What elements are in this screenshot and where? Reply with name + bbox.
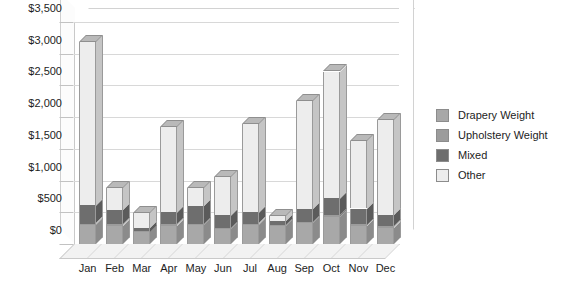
- x-axis-tick-label: May: [182, 262, 209, 274]
- bar-segment[interactable]: [350, 224, 367, 225]
- bar-segment[interactable]: [106, 210, 123, 224]
- x-axis-tick-label: Jan: [74, 262, 101, 274]
- bar-segment-front: [133, 231, 150, 232]
- bar-column[interactable]: [269, 216, 286, 244]
- bar-segment[interactable]: [106, 224, 123, 225]
- bar-segment[interactable]: [377, 226, 394, 227]
- bar-segment-front: [79, 225, 96, 244]
- y-axis-tick-label: $2,000: [28, 97, 62, 109]
- legend-swatch: [436, 169, 449, 182]
- bar-segment[interactable]: [242, 224, 259, 225]
- bar-segment-side: [177, 120, 184, 213]
- bar-segment[interactable]: [214, 177, 231, 216]
- bar-segment[interactable]: [269, 221, 286, 225]
- bar-segment[interactable]: [377, 228, 394, 244]
- bar-segment[interactable]: [323, 217, 340, 244]
- bar-series-group: [74, 22, 399, 244]
- bar-segment[interactable]: [133, 213, 150, 228]
- bar-segment[interactable]: [187, 224, 204, 225]
- legend-item[interactable]: Drapery Weight: [436, 105, 548, 125]
- bar-segment[interactable]: [323, 72, 340, 199]
- bar-column[interactable]: [160, 127, 177, 244]
- bar-segment[interactable]: [160, 226, 177, 244]
- bar-segment[interactable]: [377, 215, 394, 226]
- bar-segment[interactable]: [214, 228, 231, 229]
- bar-segment[interactable]: [242, 225, 259, 244]
- x-axis-tick-label: Apr: [155, 262, 182, 274]
- bar-segment[interactable]: [323, 198, 340, 215]
- bar-segment-side: [340, 65, 347, 199]
- bar-segment-front: [296, 101, 313, 209]
- bar-segment-side: [367, 134, 374, 209]
- bar-column[interactable]: [377, 120, 394, 244]
- bar-segment[interactable]: [269, 225, 286, 226]
- bar-segment-front: [269, 221, 286, 225]
- bar-segment[interactable]: [133, 228, 150, 232]
- y-axis-tick-label: $3,500: [28, 2, 62, 14]
- bar-segment[interactable]: [133, 232, 150, 244]
- bar-segment[interactable]: [187, 206, 204, 224]
- bar-segment-front: [377, 226, 394, 227]
- bar-segment[interactable]: [296, 223, 313, 244]
- y-axis-tick-label: $500: [38, 192, 62, 204]
- bar-segment[interactable]: [296, 222, 313, 223]
- bar-segment[interactable]: [214, 215, 231, 228]
- bar-segment[interactable]: [133, 231, 150, 232]
- bar-column[interactable]: [187, 188, 204, 244]
- bar-segment[interactable]: [269, 226, 286, 244]
- legend-swatch: [436, 149, 449, 162]
- bar-column[interactable]: [350, 141, 367, 244]
- bar-segment[interactable]: [187, 225, 204, 244]
- bar-segment-front: [214, 229, 231, 244]
- bar-segment-front: [160, 224, 177, 225]
- bar-segment-front: [323, 215, 340, 217]
- bar-segment-front: [160, 212, 177, 224]
- bar-segment[interactable]: [160, 127, 177, 213]
- bar-segment-front: [106, 188, 123, 210]
- bar-segment[interactable]: [79, 224, 96, 225]
- bar-segment[interactable]: [242, 212, 259, 223]
- bar-segment[interactable]: [79, 205, 96, 223]
- bar-segment[interactable]: [296, 101, 313, 209]
- bar-segment[interactable]: [214, 229, 231, 244]
- bar-segment[interactable]: [106, 226, 123, 244]
- bar-segment[interactable]: [350, 226, 367, 244]
- legend-item[interactable]: Other: [436, 165, 548, 185]
- bar-segment[interactable]: [377, 120, 394, 215]
- legend-item[interactable]: Mixed: [436, 145, 548, 165]
- bar-column[interactable]: [79, 42, 96, 244]
- bar-segment[interactable]: [269, 216, 286, 221]
- bar-column[interactable]: [214, 177, 231, 244]
- y-axis-tick-label: $0: [50, 224, 62, 236]
- legend-item[interactable]: Upholstery Weight: [436, 125, 548, 145]
- plot-top-face: [74, 8, 415, 23]
- bar-segment-front: [350, 141, 367, 209]
- bar-segment[interactable]: [187, 188, 204, 206]
- bar-segment[interactable]: [106, 188, 123, 210]
- bar-segment-side: [231, 170, 238, 216]
- bar-segment-front: [160, 127, 177, 213]
- bar-segment-front: [323, 72, 340, 199]
- bar-segment[interactable]: [160, 224, 177, 225]
- bar-segment[interactable]: [350, 141, 367, 209]
- legend-swatch: [436, 129, 449, 142]
- legend-item-label: Other: [458, 169, 486, 181]
- bar-column[interactable]: [323, 71, 340, 244]
- bar-segment[interactable]: [242, 124, 259, 213]
- bar-column[interactable]: [106, 188, 123, 244]
- bar-segment[interactable]: [160, 212, 177, 224]
- x-axis-tick-label: Mar: [128, 262, 155, 274]
- bar-segment[interactable]: [79, 225, 96, 244]
- bar-column[interactable]: [133, 213, 150, 244]
- bar-segment-front: [350, 224, 367, 225]
- bar-segment[interactable]: [350, 209, 367, 225]
- bar-column[interactable]: [296, 101, 313, 244]
- bar-segment[interactable]: [79, 42, 96, 206]
- bar-segment-front: [269, 216, 286, 221]
- bar-segment[interactable]: [323, 215, 340, 217]
- bar-segment-front: [323, 198, 340, 215]
- bar-column[interactable]: [242, 124, 259, 245]
- legend-item-label: Upholstery Weight: [458, 129, 548, 141]
- bar-segment-front: [214, 228, 231, 229]
- bar-segment[interactable]: [296, 209, 313, 222]
